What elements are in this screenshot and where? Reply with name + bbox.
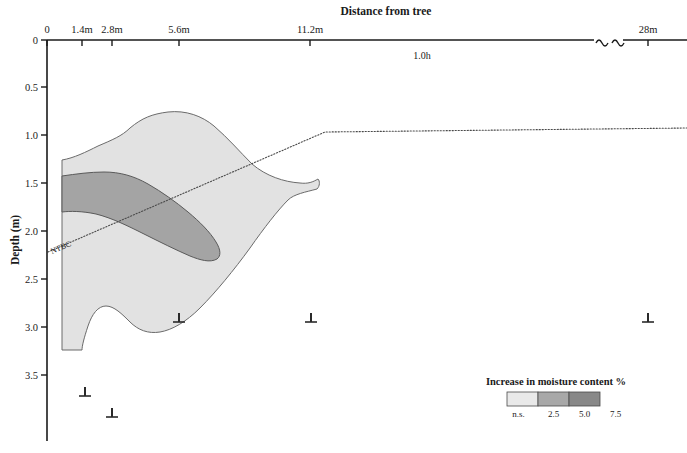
y-tick-label-0: 0 [33, 35, 38, 46]
legend-tick-label-0: n.s. [512, 409, 525, 419]
x-axis: 01.4m2.8m5.6m11.2m28m [44, 24, 687, 46]
plot-area: NTBC 1.0h [48, 50, 687, 350]
y-axis-title: Depth (m) [9, 215, 22, 265]
legend-tick-labels: n.s.2.55.07.5 [512, 409, 621, 419]
y-tick-label-7: 3.5 [25, 370, 38, 381]
soil-probe-marker-4 [642, 313, 654, 322]
soil-probe-marker-1 [106, 408, 118, 417]
legend-swatch-1 [538, 392, 569, 406]
legend-swatches [507, 392, 600, 406]
y-tick-label-4: 2.0 [25, 226, 38, 237]
x-tick-label-0: 0 [44, 24, 49, 35]
axis-break-squiggle-left [596, 40, 608, 46]
legend-title: Increase in moisture content % [486, 376, 626, 387]
y-tick-label-6: 3.0 [25, 322, 38, 333]
x-tick-label-3: 5.6m [168, 24, 189, 35]
y-axis-ticks [41, 40, 47, 375]
soil-probe-marker-3 [305, 313, 317, 322]
soil-probe-marker-0 [79, 387, 91, 396]
legend: Increase in moisture content % n.s.2.55.… [486, 376, 626, 419]
x-tick-label-2: 2.8m [101, 24, 122, 35]
legend-tick-label-2: 5.0 [579, 409, 591, 419]
moisture-content-depth-figure: Distance from tree NTBC 1.0h 01.4m2.8m5.… [0, 0, 687, 453]
y-tick-label-2: 1.0 [25, 130, 38, 141]
y-tick-label-1: 0.5 [25, 82, 38, 93]
legend-swatch-2 [569, 392, 600, 406]
x-axis-title: Distance from tree [341, 5, 432, 17]
x-axis-tick-labels: 01.4m2.8m5.6m11.2m28m [44, 24, 657, 35]
x-axis-ticks [47, 40, 648, 46]
legend-tick-label-3: 7.5 [610, 409, 622, 419]
x-tick-label-1: 1.4m [71, 24, 92, 35]
x-tick-label-4: 11.2m [297, 24, 323, 35]
y-axis-tick-labels: 00.51.01.52.02.53.03.5 [25, 35, 38, 381]
tree-height-note: 1.0h [413, 50, 431, 61]
y-tick-label-5: 2.5 [25, 274, 38, 285]
y-tick-label-3: 1.5 [25, 178, 38, 189]
y-axis: 00.51.01.52.02.53.03.5 Depth (m) [9, 35, 47, 441]
legend-tick-label-1: 2.5 [548, 409, 560, 419]
axis-break-squiggle-right [612, 40, 624, 46]
x-tick-label-5: 28m [639, 24, 658, 35]
legend-swatch-0 [507, 392, 538, 406]
